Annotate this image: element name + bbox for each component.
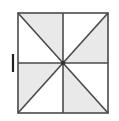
pinwheel-square-figure <box>0 0 119 121</box>
center-intersection-dot <box>61 61 65 65</box>
figure-container <box>0 0 119 121</box>
